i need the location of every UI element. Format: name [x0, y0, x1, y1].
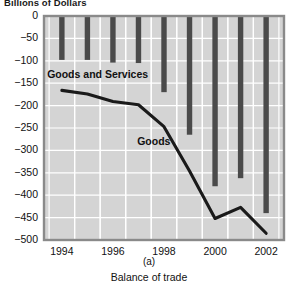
bar — [161, 16, 166, 92]
figure-caption: Balance of trade — [0, 271, 298, 283]
bar — [238, 16, 243, 178]
y-axis-tick-label: −300 — [2, 143, 38, 155]
y-axis-tick-label: −350 — [2, 166, 38, 178]
balance-of-trade-figure: Billions of Dollars 0−50−100−150−200−250… — [0, 0, 298, 288]
panel-letter: (a) — [0, 256, 298, 267]
y-axis-tick-label: −450 — [2, 211, 38, 223]
bar — [263, 16, 268, 213]
y-axis-tick-label: −50 — [2, 31, 38, 43]
y-axis-tick-label: 0 — [2, 9, 38, 21]
bar — [110, 16, 115, 63]
bar — [212, 16, 217, 186]
series-annotation-goods-and-services: Goods and Services — [47, 68, 148, 80]
bar — [59, 16, 64, 60]
y-axis-tick-label: −100 — [2, 54, 38, 66]
bar — [85, 16, 90, 60]
bar — [187, 16, 192, 135]
y-axis-tick-label: −400 — [2, 188, 38, 200]
y-axis-tick-label: −150 — [2, 76, 38, 88]
y-axis-tick-label: −250 — [2, 121, 38, 133]
y-axis-tick-label: −500 — [2, 233, 38, 245]
series-annotation-goods: Goods — [137, 135, 170, 147]
bar — [136, 16, 141, 63]
y-axis-tick-label: −200 — [2, 99, 38, 111]
